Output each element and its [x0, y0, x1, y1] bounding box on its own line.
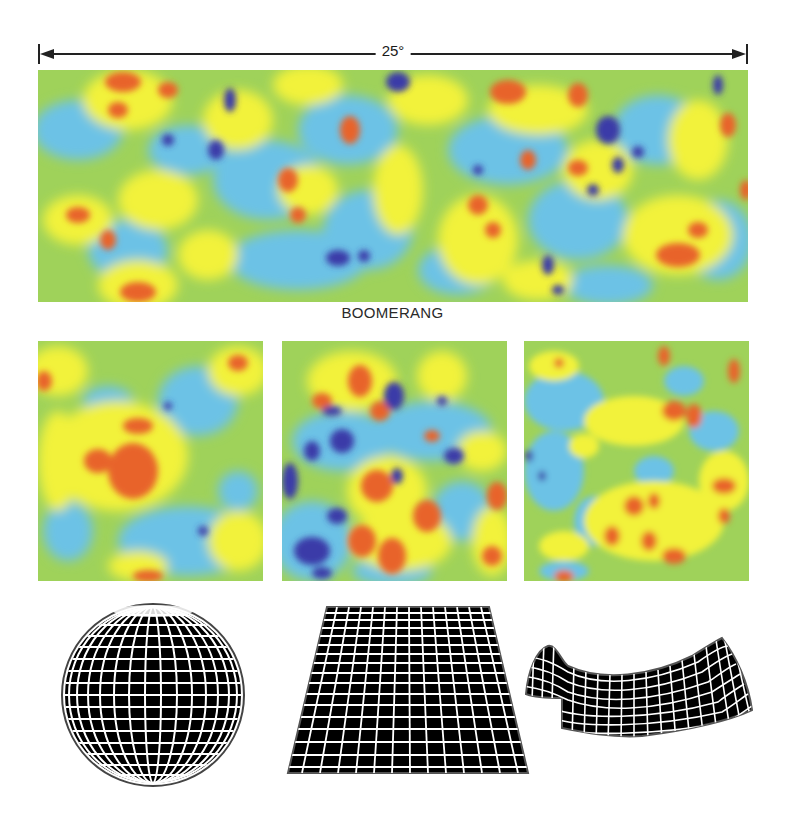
simulated-map-panel-small-spots: [524, 341, 749, 581]
saddle-grid-icon: [522, 632, 758, 748]
sphere-grid-icon: [58, 600, 248, 794]
plane-grid-icon: [285, 605, 531, 781]
map-caption: BOOMERANG: [0, 304, 785, 321]
scale-bar: 25°: [38, 44, 748, 64]
simulated-map-panel-large-spots: [38, 341, 263, 581]
scale-label: 25°: [376, 42, 411, 59]
simulated-map-panel-medium-spots: [282, 341, 507, 581]
boomerang-cmb-map: [38, 70, 748, 302]
